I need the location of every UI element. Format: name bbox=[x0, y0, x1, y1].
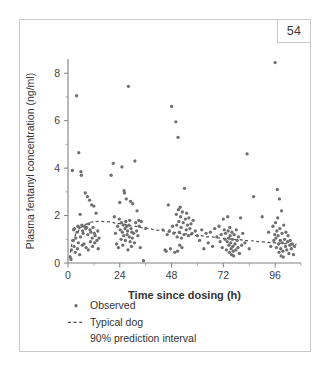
data-point bbox=[117, 246, 120, 249]
data-point bbox=[252, 195, 255, 198]
data-point bbox=[220, 233, 223, 236]
data-point bbox=[226, 240, 229, 243]
data-point bbox=[284, 245, 287, 248]
data-point bbox=[237, 235, 240, 238]
data-point bbox=[211, 245, 214, 248]
data-point bbox=[78, 253, 81, 256]
data-point bbox=[121, 231, 124, 234]
data-point bbox=[273, 61, 276, 64]
data-point bbox=[114, 232, 117, 235]
data-point bbox=[119, 238, 122, 241]
data-point bbox=[88, 198, 91, 201]
data-point bbox=[138, 225, 141, 228]
data-point bbox=[235, 228, 238, 231]
data-point bbox=[223, 228, 226, 231]
data-point bbox=[122, 234, 125, 237]
y-tick-label-6: 6 bbox=[54, 114, 60, 126]
data-point bbox=[190, 232, 193, 235]
data-point bbox=[176, 249, 179, 252]
data-point bbox=[182, 233, 185, 236]
data-point bbox=[97, 236, 100, 239]
data-point bbox=[183, 187, 186, 190]
x-axis-title: Time since dosing (h) bbox=[128, 289, 241, 301]
data-point bbox=[77, 241, 80, 244]
data-point bbox=[225, 248, 228, 251]
data-point bbox=[175, 223, 178, 226]
data-point bbox=[76, 247, 79, 250]
x-tick-label-72: 72 bbox=[217, 269, 229, 281]
data-point bbox=[120, 165, 123, 168]
data-point bbox=[124, 220, 127, 223]
data-point bbox=[166, 233, 169, 236]
typical-dog-trend-line bbox=[69, 221, 297, 258]
data-point bbox=[185, 212, 188, 215]
data-point bbox=[238, 252, 241, 255]
data-point bbox=[207, 241, 210, 244]
data-point bbox=[144, 227, 147, 230]
data-point bbox=[69, 258, 72, 261]
data-point bbox=[127, 85, 130, 88]
data-point bbox=[128, 240, 131, 243]
data-point bbox=[226, 229, 229, 232]
data-point bbox=[175, 213, 178, 216]
data-point bbox=[275, 229, 278, 232]
data-point bbox=[194, 229, 197, 232]
data-point bbox=[135, 209, 138, 212]
data-point bbox=[132, 232, 135, 235]
data-point bbox=[218, 240, 221, 243]
data-point bbox=[75, 231, 78, 234]
data-point bbox=[115, 242, 118, 245]
data-point bbox=[116, 225, 119, 228]
data-point bbox=[200, 228, 203, 231]
data-point bbox=[131, 202, 134, 205]
x-tick-label-96: 96 bbox=[269, 269, 281, 281]
data-point bbox=[86, 195, 89, 198]
data-point bbox=[89, 240, 92, 243]
data-point bbox=[282, 223, 285, 226]
data-point bbox=[229, 241, 232, 244]
data-point bbox=[285, 248, 288, 251]
data-point bbox=[232, 233, 235, 236]
data-point bbox=[233, 242, 236, 245]
data-point bbox=[215, 235, 218, 238]
data-point bbox=[196, 234, 199, 237]
data-point bbox=[222, 217, 225, 220]
data-point bbox=[278, 197, 281, 200]
data-point bbox=[118, 217, 121, 220]
data-point bbox=[182, 221, 185, 224]
data-point bbox=[180, 246, 183, 249]
data-point bbox=[126, 229, 129, 232]
data-point bbox=[139, 246, 142, 249]
data-point bbox=[289, 239, 292, 242]
data-point bbox=[87, 248, 90, 251]
scatter-chart: 02468024487296Time since dosing (h)Plasm… bbox=[20, 20, 312, 353]
data-point bbox=[168, 229, 171, 232]
data-point bbox=[275, 246, 278, 249]
x-tick-label-48: 48 bbox=[166, 269, 178, 281]
data-point bbox=[240, 244, 243, 247]
data-point bbox=[229, 234, 232, 237]
data-point bbox=[112, 162, 115, 165]
data-point bbox=[277, 251, 280, 254]
data-point bbox=[282, 255, 285, 258]
data-point bbox=[273, 233, 276, 236]
data-point bbox=[78, 213, 81, 216]
data-point bbox=[286, 234, 289, 237]
data-point bbox=[177, 220, 180, 223]
data-point bbox=[241, 232, 244, 235]
data-point bbox=[171, 225, 174, 228]
data-point bbox=[124, 239, 127, 242]
data-point bbox=[217, 225, 220, 228]
legend-label-typical-dog: Typical dog bbox=[90, 316, 143, 328]
legend-marker-dot bbox=[74, 304, 77, 307]
data-point bbox=[96, 229, 99, 232]
data-point bbox=[276, 234, 279, 237]
data-point bbox=[122, 223, 125, 226]
data-point bbox=[118, 201, 121, 204]
data-point bbox=[236, 246, 239, 249]
observed-points-group bbox=[69, 61, 297, 262]
data-point bbox=[97, 247, 100, 250]
data-point bbox=[123, 191, 126, 194]
data-point bbox=[188, 227, 191, 230]
data-point bbox=[248, 247, 251, 250]
